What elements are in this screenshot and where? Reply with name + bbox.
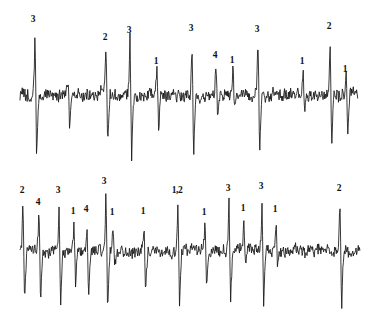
- trace-panel-2: 243143111,2131312: [0, 161, 376, 322]
- spike-label-unit-4: 4: [36, 198, 41, 208]
- spike-label-unit-1: 1: [154, 57, 159, 67]
- spike-label-unit-1: 1: [202, 208, 207, 218]
- spike-train-figure: 32313413121 243143111,2131312: [0, 0, 376, 322]
- spike-label-unit-2: 2: [327, 22, 332, 32]
- spike-label-unit-1: 1: [241, 204, 246, 214]
- spike-label-unit-3: 3: [31, 15, 36, 25]
- spike-label-unit-3: 3: [226, 184, 231, 194]
- spike-label-unit-3: 3: [102, 177, 107, 187]
- spike-label-unit-2: 2: [337, 184, 342, 194]
- spike-label-unit-3: 3: [255, 25, 260, 35]
- spike-label-unit-2: 2: [20, 186, 25, 196]
- spike-label-unit-3: 3: [127, 26, 132, 36]
- spike-label-unit-3: 3: [56, 186, 61, 196]
- spike-label-unit-1: 1: [71, 207, 76, 217]
- spike-label-unit-1: 1: [273, 205, 278, 215]
- spike-label-unit-1: 1: [300, 57, 305, 67]
- trace-1-path: [20, 33, 358, 161]
- spike-label-unit-3: 3: [189, 24, 194, 34]
- spike-label-unit-1-2: 1,2: [172, 186, 183, 196]
- spike-label-unit-4: 4: [213, 51, 218, 61]
- spike-label-unit-1: 1: [230, 56, 235, 66]
- spike-label-unit-3: 3: [259, 182, 264, 192]
- spike-label-unit-1: 1: [141, 207, 146, 217]
- spike-label-unit-4: 4: [84, 205, 89, 215]
- spike-label-unit-1: 1: [343, 65, 348, 75]
- spike-label-unit-2: 2: [103, 33, 108, 43]
- spike-label-unit-1: 1: [110, 208, 115, 218]
- trace-panel-1: 32313413121: [0, 0, 376, 161]
